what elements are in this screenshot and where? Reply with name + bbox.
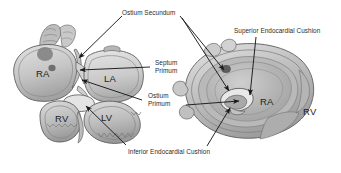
chamber-label-ra-right: RA (260, 96, 274, 107)
left-heart-panel (14, 24, 144, 143)
left-left-ventricle (84, 101, 141, 143)
chamber-label-la-left: LA (104, 73, 116, 84)
chamber-label-lv-left: LV (101, 112, 112, 123)
left-vessel-stub-b (60, 25, 75, 47)
label-superior-endocardial-cushion: Superior Endocardial Cushion (234, 27, 320, 34)
label-inferior-endocardial-cushion: Inferior Endocardial Cushion (128, 148, 210, 155)
heart-septation-figure: Ostium Secundum Superior Endocardial Cus… (0, 0, 341, 173)
label-septum-primum-line1: Septum (155, 59, 177, 66)
chamber-label-rv-left: RV (55, 113, 68, 124)
right-heart-panel (173, 39, 314, 139)
label-ostium-primum-line2: Primum (148, 100, 170, 107)
label-ostium-primum-line1: Ostium (148, 92, 169, 99)
label-ostium-secundum: Ostium Secundum (122, 9, 175, 16)
chamber-label-rv-right: RV (303, 106, 316, 117)
label-septum-primum-line2: Primum (155, 67, 177, 74)
chamber-label-ra-left: RA (36, 68, 50, 79)
